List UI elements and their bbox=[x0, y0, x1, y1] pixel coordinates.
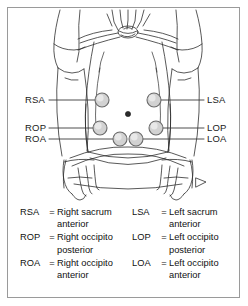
legend-term-line2: anterior bbox=[20, 269, 128, 281]
legend-term-line2: anterior bbox=[132, 269, 238, 281]
callout-label-rsa: RSA bbox=[25, 95, 45, 105]
legend-equals: = bbox=[47, 257, 57, 269]
legend-entry: LOA = Left occipito anterior bbox=[132, 257, 238, 281]
hand-right bbox=[157, 159, 206, 200]
lower-drape bbox=[63, 147, 192, 189]
legend-entry: ROA = Right occipito anterior bbox=[20, 257, 128, 281]
legend-term-line2: posterior bbox=[20, 244, 128, 256]
legend-abbr: ROA bbox=[20, 257, 47, 269]
callout-label-roa: ROA bbox=[25, 134, 46, 144]
legend-equals: = bbox=[159, 231, 169, 243]
legend-entry: LOP = Left occipito posterior bbox=[132, 231, 238, 255]
legend-term-line1: Right sacrum bbox=[57, 206, 128, 218]
callout-label-lsa: LSA bbox=[207, 95, 226, 105]
legend-term-line2: anterior bbox=[20, 218, 128, 230]
leader-lines bbox=[49, 100, 204, 139]
anatomical-figure: RSA ROP ROA LSA LOP LOA bbox=[8, 8, 239, 204]
arm-left bbox=[54, 10, 89, 156]
legend-entry: ROP = Right occipito posterior bbox=[20, 231, 128, 255]
legend-equals: = bbox=[159, 206, 169, 218]
legend-abbr: LOP bbox=[132, 231, 159, 243]
legend-entry: LSA = Left sacrum anterior bbox=[132, 206, 238, 230]
callout-label-lop: LOP bbox=[207, 123, 227, 133]
callout-label-loa: LOA bbox=[207, 134, 227, 144]
legend-term-line2: posterior bbox=[132, 244, 238, 256]
arm-right bbox=[168, 10, 203, 156]
legend-equals: = bbox=[47, 231, 57, 243]
abdomen-contours bbox=[96, 52, 161, 130]
legend-column-left-positions: LSA = Left sacrum anterior LOP = Left oc… bbox=[132, 206, 238, 282]
position-markers bbox=[93, 93, 163, 146]
legend-abbr: RSA bbox=[20, 206, 47, 218]
legend-entry: RSA = Right sacrum anterior bbox=[20, 206, 128, 230]
legend-term-line1: Left occipito bbox=[169, 231, 238, 243]
legend-term-line1: Left sacrum bbox=[169, 206, 238, 218]
callout-label-rop: ROP bbox=[25, 123, 46, 133]
legend-equals: = bbox=[47, 206, 57, 218]
legend-column-right-positions: RSA = Right sacrum anterior ROP = Right … bbox=[20, 206, 128, 282]
hand-left bbox=[63, 159, 99, 200]
legend-abbr: LOA bbox=[132, 257, 159, 269]
legend-term-line1: Right occipito bbox=[57, 231, 128, 243]
navel-marker bbox=[125, 111, 130, 116]
legend-term-line1: Left occipito bbox=[169, 257, 238, 269]
legend-abbr: LSA bbox=[132, 206, 159, 218]
legend-term-line2: anterior bbox=[132, 218, 238, 230]
legend-abbr: ROP bbox=[20, 231, 47, 243]
illustration-frame: RSA ROP ROA LSA LOP LOA RSA = Right sacr… bbox=[7, 7, 240, 298]
legend-equals: = bbox=[159, 257, 169, 269]
legend-term-line1: Right occipito bbox=[57, 257, 128, 269]
